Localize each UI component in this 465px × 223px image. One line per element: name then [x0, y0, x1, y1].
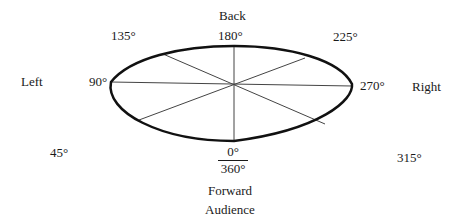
- back-label: Back: [219, 9, 246, 23]
- angle-0-label: 0°: [218, 145, 248, 161]
- angle-270-label: 270°: [360, 79, 385, 93]
- stage-ellipse: [111, 46, 353, 141]
- right-label: Right: [412, 80, 441, 94]
- angle-180-label: 180°: [218, 29, 243, 43]
- angle-90-label: 90°: [89, 75, 107, 89]
- left-label: Left: [21, 75, 43, 89]
- audience-label: Audience: [205, 203, 255, 217]
- forward-label: Forward: [208, 184, 252, 198]
- angle-0-360-label: 0° 360°: [218, 145, 248, 176]
- angle-45-label: 45°: [50, 146, 68, 160]
- spoke-135-315: [163, 54, 325, 124]
- angle-315-label: 315°: [397, 151, 422, 165]
- spoke-45-225: [139, 58, 305, 120]
- angle-225-label: 225°: [333, 30, 358, 44]
- spokes: [111, 46, 352, 141]
- angle-360-label: 360°: [218, 161, 248, 176]
- angle-135-label: 135°: [111, 29, 136, 43]
- stage-direction-diagram: Back 180° 135° 225° Left 90° 270° Right …: [0, 0, 465, 223]
